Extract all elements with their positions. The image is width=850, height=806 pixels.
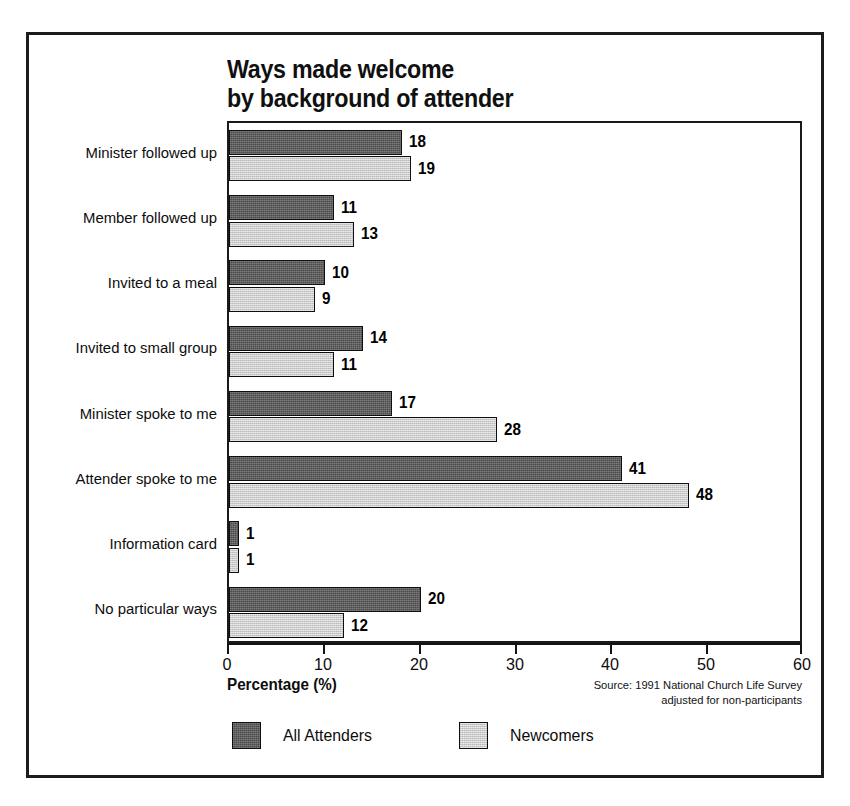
x-tick-label: 20 bbox=[397, 655, 441, 675]
bar-value-label: 48 bbox=[696, 486, 713, 504]
bar-value-label: 20 bbox=[428, 590, 445, 608]
bar-value-label: 18 bbox=[409, 133, 426, 151]
bar-1[interactable] bbox=[229, 156, 411, 181]
legend-item-1[interactable]: Newcomers bbox=[459, 718, 597, 752]
bar-value-label: 19 bbox=[418, 160, 435, 178]
chart-title: Ways made welcome by background of atten… bbox=[227, 55, 618, 113]
legend-item-0[interactable]: All Attenders bbox=[232, 718, 376, 752]
category-label: Minister spoke to me bbox=[25, 405, 217, 423]
category-label: Invited to small group bbox=[25, 339, 217, 357]
bar-0[interactable] bbox=[229, 456, 622, 481]
x-tick-label: 40 bbox=[588, 655, 632, 675]
bar-0[interactable] bbox=[229, 260, 325, 285]
bar-1[interactable] bbox=[229, 352, 334, 377]
bar-value-label: 1 bbox=[246, 525, 254, 543]
bar-1[interactable] bbox=[229, 417, 497, 442]
bar-1[interactable] bbox=[229, 613, 344, 638]
bar-value-label: 11 bbox=[341, 356, 357, 374]
x-tick-label: 60 bbox=[780, 655, 824, 675]
bar-0[interactable] bbox=[229, 587, 421, 612]
category-axis-labels: Minister followed upMember followed upIn… bbox=[12, 121, 217, 643]
bar-value-label: 13 bbox=[361, 225, 378, 243]
bar-value-label: 10 bbox=[332, 264, 349, 282]
category-label: Information card bbox=[25, 535, 217, 553]
legend-label: All Attenders bbox=[283, 726, 372, 745]
x-axis-title: Percentage (%) bbox=[227, 676, 337, 694]
x-tick-mark bbox=[800, 645, 802, 654]
legend-swatch-icon bbox=[459, 722, 488, 749]
category-label: Member followed up bbox=[25, 209, 217, 227]
category-label: Minister followed up bbox=[25, 144, 217, 162]
legend-swatch-icon bbox=[232, 722, 261, 749]
bar-value-label: 9 bbox=[322, 290, 330, 308]
x-tick-mark bbox=[227, 645, 229, 654]
category-label: No particular ways bbox=[25, 600, 217, 618]
x-tick-label: 30 bbox=[493, 655, 537, 675]
plot-area: 18191113109141117284148112012 bbox=[227, 121, 802, 643]
x-tick-mark bbox=[706, 645, 708, 654]
bar-0[interactable] bbox=[229, 521, 239, 546]
x-tick-mark bbox=[610, 645, 612, 654]
bar-value-label: 12 bbox=[351, 617, 368, 635]
bar-0[interactable] bbox=[229, 326, 363, 351]
bar-value-label: 41 bbox=[629, 460, 646, 478]
bar-1[interactable] bbox=[229, 548, 239, 573]
chart-legend: All AttendersNewcomers bbox=[227, 718, 687, 758]
x-tick-label: 10 bbox=[301, 655, 345, 675]
bar-0[interactable] bbox=[229, 130, 402, 155]
bar-1[interactable] bbox=[229, 287, 315, 312]
category-label: Invited to a meal bbox=[25, 274, 217, 292]
legend-label: Newcomers bbox=[510, 726, 594, 745]
bar-value-label: 28 bbox=[504, 421, 521, 439]
bar-value-label: 11 bbox=[341, 199, 357, 217]
bar-1[interactable] bbox=[229, 222, 354, 247]
x-tick-mark bbox=[323, 645, 325, 654]
x-tick-mark bbox=[419, 645, 421, 654]
x-tick-mark bbox=[515, 645, 517, 654]
bar-0[interactable] bbox=[229, 391, 392, 416]
plot-inner: 18191113109141117284148112012 bbox=[229, 123, 800, 641]
x-tick-label: 0 bbox=[205, 655, 249, 675]
bar-0[interactable] bbox=[229, 195, 334, 220]
bar-value-label: 1 bbox=[246, 551, 254, 569]
category-label: Attender spoke to me bbox=[25, 470, 217, 488]
x-tick-label: 50 bbox=[684, 655, 728, 675]
figure-canvas: Ways made welcome by background of atten… bbox=[0, 0, 850, 806]
source-note: Source: 1991 National Church Life Survey… bbox=[528, 678, 802, 708]
bar-1[interactable] bbox=[229, 483, 689, 508]
bar-value-label: 17 bbox=[399, 394, 416, 412]
bar-value-label: 14 bbox=[370, 329, 387, 347]
